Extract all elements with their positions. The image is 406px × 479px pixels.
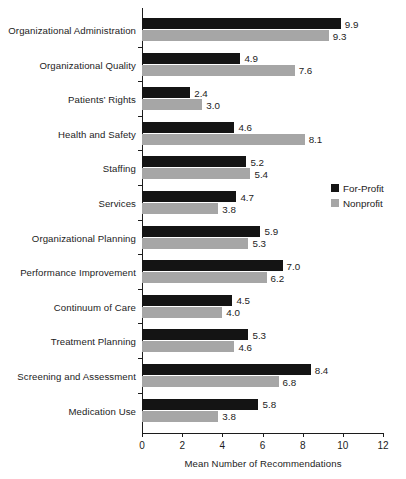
- bar-value-label: 8.1: [309, 134, 323, 145]
- bar-value-label: 5.3: [252, 238, 266, 249]
- bar-value-label: 9.9: [345, 18, 359, 29]
- bar-group: Organizational Administration9.99.3: [142, 18, 383, 42]
- bar-for-profit: [142, 260, 283, 271]
- x-axis-tick: [303, 433, 304, 437]
- x-axis-tick: [182, 433, 183, 437]
- bar-value-label: 3.8: [222, 411, 236, 422]
- bar-nonprofit: [142, 307, 222, 318]
- bar-nonprofit: [142, 134, 305, 145]
- bar-value-label: 7.0: [287, 260, 301, 271]
- category-label: Services: [98, 198, 136, 209]
- bar-group: Performance Improvement7.06.2: [142, 260, 383, 284]
- x-axis-tick-label: 2: [179, 440, 185, 451]
- bar-nonprofit: [142, 411, 218, 422]
- y-axis-tick: [138, 185, 142, 186]
- bar-value-label: 4.7: [240, 191, 254, 202]
- y-axis-tick: [138, 393, 142, 394]
- category-label: Performance Improvement: [20, 267, 136, 278]
- bar-for-profit: [142, 295, 232, 306]
- bar-value-label: 6.2: [271, 272, 285, 283]
- category-label: Organizational Planning: [32, 232, 136, 243]
- bar-value-label: 5.8: [262, 399, 276, 410]
- x-axis-tick-label: 12: [377, 440, 388, 451]
- x-axis-tick-label: 6: [260, 440, 266, 451]
- bar-for-profit: [142, 156, 246, 167]
- x-axis-title: Mean Number of Recommendations: [142, 458, 384, 469]
- x-axis-tick-label: 0: [139, 440, 145, 451]
- bar-nonprofit: [142, 168, 250, 179]
- category-label: Screening and Assessment: [17, 371, 136, 382]
- bar-for-profit: [142, 53, 240, 64]
- bar-nonprofit: [142, 99, 202, 110]
- bar-value-label: 9.3: [333, 30, 347, 41]
- plot-area: Organizational Administration9.99.3Organ…: [142, 8, 383, 433]
- bar-group: Patients’ Rights2.43.0: [142, 87, 383, 111]
- category-label: Treatment Planning: [51, 336, 136, 347]
- bar-nonprofit: [142, 341, 234, 352]
- bar-value-label: 4.5: [236, 295, 250, 306]
- x-axis-tick: [142, 433, 143, 437]
- y-axis-tick: [138, 289, 142, 290]
- category-label: Staffing: [103, 163, 136, 174]
- bar-nonprofit: [142, 203, 218, 214]
- y-axis-tick: [138, 220, 142, 221]
- y-axis-tick: [138, 254, 142, 255]
- bar-value-label: 4.6: [238, 122, 252, 133]
- bar-value-label: 4.9: [244, 53, 258, 64]
- legend-swatch-icon: [331, 199, 339, 207]
- bar-for-profit: [142, 329, 248, 340]
- bar-group: Staffing5.25.4: [142, 156, 383, 180]
- bar-group: Medication Use5.83.8: [142, 399, 383, 423]
- bar-group: Screening and Assessment8.46.8: [142, 364, 383, 388]
- x-axis-tick: [343, 433, 344, 437]
- legend-label: For-Profit: [343, 183, 384, 194]
- bar-value-label: 5.4: [254, 168, 268, 179]
- bar-value-label: 3.0: [206, 99, 220, 110]
- bar-value-label: 2.4: [194, 87, 208, 98]
- bar-nonprofit: [142, 238, 248, 249]
- bar-nonprofit: [142, 30, 329, 41]
- bar-for-profit: [142, 226, 260, 237]
- x-axis-tick: [383, 433, 384, 437]
- category-label: Medication Use: [68, 405, 136, 416]
- x-axis-tick-label: 4: [220, 440, 226, 451]
- category-label: Continuum of Care: [54, 301, 136, 312]
- bar-value-label: 5.9: [264, 226, 278, 237]
- bar-for-profit: [142, 364, 311, 375]
- bar-value-label: 5.2: [250, 156, 264, 167]
- y-axis-tick: [138, 358, 142, 359]
- category-label: Organizational Administration: [8, 25, 136, 36]
- bar-group: Health and Safety4.68.1: [142, 122, 383, 146]
- bar-for-profit: [142, 122, 234, 133]
- x-axis-tick: [263, 433, 264, 437]
- bar-for-profit: [142, 87, 190, 98]
- bar-for-profit: [142, 18, 341, 29]
- bar-value-label: 4.6: [238, 341, 252, 352]
- bar-value-label: 7.6: [299, 65, 313, 76]
- y-axis-tick: [138, 150, 142, 151]
- bar-value-label: 4.0: [226, 307, 240, 318]
- category-label: Patients’ Rights: [68, 94, 136, 105]
- bar-group: Organizational Quality4.97.6: [142, 53, 383, 77]
- y-axis-tick: [138, 323, 142, 324]
- legend-item: For-Profit: [331, 181, 384, 195]
- bar-group: Continuum of Care4.54.0: [142, 295, 383, 319]
- x-axis-tick-label: 10: [337, 440, 348, 451]
- x-axis-tick: [222, 433, 223, 437]
- chart-legend: For-ProfitNonprofit: [331, 181, 384, 211]
- bar-nonprofit: [142, 65, 295, 76]
- bar-group: Organizational Planning5.95.3: [142, 226, 383, 250]
- y-axis-tick: [138, 47, 142, 48]
- x-axis-tick-label: 8: [300, 440, 306, 451]
- legend-label: Nonprofit: [343, 198, 383, 209]
- y-axis-tick: [138, 116, 142, 117]
- bar-chart-figure: Organizational Administration9.99.3Organ…: [0, 0, 406, 479]
- bar-nonprofit: [142, 376, 279, 387]
- bar-value-label: 3.8: [222, 203, 236, 214]
- bar-nonprofit: [142, 272, 267, 283]
- category-label: Health and Safety: [58, 128, 136, 139]
- legend-swatch-icon: [331, 184, 339, 192]
- category-label: Organizational Quality: [39, 59, 136, 70]
- bar-group: Treatment Planning5.34.6: [142, 329, 383, 353]
- bar-value-label: 5.3: [252, 329, 266, 340]
